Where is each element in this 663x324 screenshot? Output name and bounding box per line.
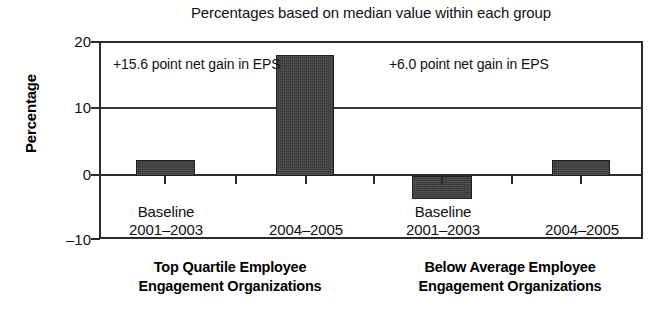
annotation-group2-line1: +6.0 point net gain in (389, 56, 517, 72)
bar-group1-2004-2005 (276, 55, 334, 176)
y-tick-label-neg10: –10 (45, 232, 91, 247)
gridline-10 (101, 107, 641, 109)
group-label-below-average-line2: Engagement Organizations (375, 277, 645, 296)
x-tick-mark-5 (441, 176, 443, 184)
x-tick-label-group2-baseline-line2: 2001–2003 (388, 221, 498, 239)
x-tick-label-group2-2004-2005: 2004–2005 (527, 221, 637, 239)
annotation-group1: +15.6 point net gain in EPS (113, 55, 288, 73)
y-axis-title: Percentage (22, 54, 39, 174)
chart-figure: Percentages based on median value within… (0, 0, 663, 324)
y-tick-label-0: 0 (45, 167, 91, 182)
group-label-below-average-line1: Below Average Employee (375, 258, 645, 277)
x-tick-label-group2-baseline-line1: Baseline (388, 203, 498, 221)
y-tick-label-20: 20 (45, 34, 91, 49)
x-tick-mark-2 (235, 176, 237, 184)
annotation-group1-line2: in EPS (238, 56, 280, 72)
annotation-group1-line1: +15.6 point net gain (113, 56, 234, 72)
x-tick-mark-7 (580, 176, 582, 184)
y-tick-label-10: 10 (45, 100, 91, 115)
x-tick-mark-6 (511, 176, 513, 184)
group-label-top-quartile-line1: Top Quartile Employee (100, 258, 360, 277)
x-tick-label-group1-baseline-line1: Baseline (111, 203, 221, 221)
bar-group2-2004-2005 (552, 160, 610, 176)
x-tick-mark-3 (305, 176, 307, 184)
group-label-top-quartile: Top Quartile Employee Engagement Organiz… (100, 258, 360, 296)
x-tick-label-group1-2004-2005-line2: 2004–2005 (251, 221, 361, 239)
x-tick-label-group2-2004-2005-line2: 2004–2005 (527, 221, 637, 239)
plot-area: +15.6 point net gain in EPS +6.0 point n… (99, 41, 643, 239)
group-label-top-quartile-line2: Engagement Organizations (100, 277, 360, 296)
group-label-below-average: Below Average Employee Engagement Organi… (375, 258, 645, 296)
chart-title: Percentages based on median value within… (99, 4, 643, 21)
x-tick-mark-1 (164, 176, 166, 184)
x-tick-label-group1-2004-2005: 2004–2005 (251, 221, 361, 239)
annotation-group2: +6.0 point net gain in EPS (389, 55, 574, 73)
bar-group1-baseline (136, 160, 195, 176)
x-tick-label-group2-baseline: Baseline 2001–2003 (388, 203, 498, 239)
x-tick-label-group1-baseline: Baseline 2001–2003 (111, 203, 221, 239)
x-tick-mark-4 (373, 176, 375, 184)
annotation-group2-line2: EPS (521, 56, 549, 72)
x-tick-label-group1-baseline-line2: 2001–2003 (111, 221, 221, 239)
